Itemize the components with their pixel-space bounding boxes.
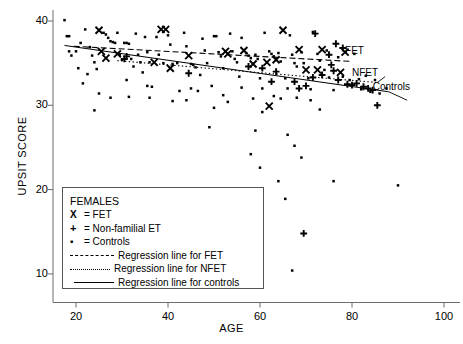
x-tick-label: 100 xyxy=(430,310,458,322)
legend-entry: Regression line for NFET xyxy=(70,262,263,276)
x-axis-label: AGE xyxy=(0,322,463,334)
legend-line-dashed-swatch xyxy=(70,251,114,259)
y-tick-label: 40 xyxy=(24,14,48,26)
legend-plus-swatch: + xyxy=(70,222,84,234)
x-tick-label: 60 xyxy=(246,310,274,322)
legend-line-solid-swatch xyxy=(74,278,114,286)
legend-line-dotted-swatch xyxy=(70,265,110,273)
legend-entry-label: = FET xyxy=(84,209,112,220)
x-tick-label: 80 xyxy=(338,310,366,322)
scatter-plot-canvas xyxy=(0,0,463,344)
legend-entry-label: = Non-familial ET xyxy=(84,223,161,234)
y-tick-label: 30 xyxy=(24,98,48,110)
regression-line-fet xyxy=(74,46,352,61)
legend-x-swatch: X xyxy=(70,209,84,220)
chart-root: UPSIT SCORE AGE 1020304020406080100 FETN… xyxy=(0,0,463,344)
x-tick-label: 40 xyxy=(154,310,182,322)
annotation-controls: Controls xyxy=(373,81,410,92)
legend-entries: X= FET+= Non-familial ET■= ControlsRegre… xyxy=(70,208,263,289)
legend-entry-label: Regression line for FET xyxy=(118,250,223,261)
legend-entry: Regression line for FET xyxy=(70,249,263,263)
legend-title: FEMALES xyxy=(70,193,263,208)
legend-asterisk-swatch: ■ xyxy=(70,238,84,244)
y-tick-label: 10 xyxy=(24,267,48,279)
legend-entry-label: Regression line for NFET xyxy=(114,263,226,274)
annotation-nfet: NFET xyxy=(352,67,378,78)
chart-legend: FEMALES X= FET+= Non-familial ET■= Contr… xyxy=(62,187,264,289)
legend-entry-label: Regression line for controls xyxy=(118,277,239,288)
annotation-fet: FET xyxy=(345,45,364,56)
y-tick-label: 20 xyxy=(24,183,48,195)
x-tick-label: 20 xyxy=(62,310,90,322)
legend-entry: Regression line for controls xyxy=(70,276,263,290)
legend-entry: ■= Controls xyxy=(70,235,263,249)
legend-entry: X= FET xyxy=(70,208,263,222)
legend-entry: += Non-familial ET xyxy=(70,222,263,236)
legend-entry-label: = Controls xyxy=(84,236,130,247)
